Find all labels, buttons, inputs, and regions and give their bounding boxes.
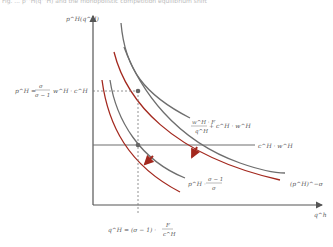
shift-arrow-mr <box>145 156 153 164</box>
svg-text:σ − 1: σ − 1 <box>35 92 50 98</box>
svg-text:p^H =: p^H = <box>15 87 36 95</box>
svg-text:σ − 1: σ − 1 <box>208 176 223 182</box>
equilibrium-point-upper <box>136 89 141 94</box>
demand-label: (p^H)^−σ <box>290 180 324 188</box>
marginal-revenue-curve-gray <box>110 80 185 178</box>
demand-curve-red <box>114 52 280 180</box>
figure-caption: Fig. ... p^H(q^H) and the monopolistic c… <box>2 0 207 5</box>
diagram: Fig. ... p^H(q^H) and the monopolistic c… <box>0 0 333 247</box>
x-axis-label: q^h <box>314 211 327 219</box>
svg-text:w^H · c^H: w^H · c^H <box>53 87 89 94</box>
svg-text:F: F <box>165 222 170 228</box>
svg-text:q^H: q^H <box>195 128 208 135</box>
svg-text:q^H = (σ − 1) ·: q^H = (σ − 1) · <box>108 226 156 234</box>
svg-text:+ c^H · w^H: + c^H · w^H <box>209 122 251 129</box>
marginal-cost-label: c^H · w^H <box>258 142 294 149</box>
equilibrium-point-lower <box>136 143 141 148</box>
price-equation-label: p^H = σ σ − 1 w^H · c^H <box>15 83 89 98</box>
marginal-revenue-label: p^H · σ − 1 σ <box>188 176 223 191</box>
quantity-equation-label: q^H = (σ − 1) · F c^H <box>108 222 176 237</box>
y-axis-label: p^H(q^H) <box>66 15 100 23</box>
svg-text:σ: σ <box>212 185 216 191</box>
svg-text:p^H ·: p^H · <box>188 180 206 188</box>
svg-text:c^H: c^H <box>163 231 176 237</box>
svg-text:σ: σ <box>39 83 43 89</box>
average-cost-label: w^H · F q^H + c^H · w^H <box>191 119 251 135</box>
